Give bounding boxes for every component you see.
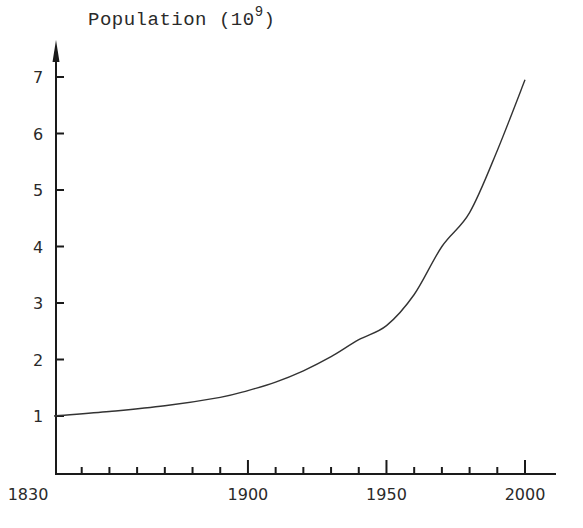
- x-tick-label: 1830: [8, 485, 49, 504]
- y-tick-label: 3: [33, 294, 43, 313]
- x-tick-labels: 1830190019502000: [8, 485, 546, 504]
- population-line-chart: Population (109) 1234567 183019001950200…: [0, 0, 583, 528]
- x-ticks: [82, 460, 525, 474]
- population-curve: [54, 80, 525, 416]
- y-tick-label: 7: [33, 68, 43, 87]
- x-tick-label: 1900: [228, 485, 269, 504]
- y-axis-arrow-icon: [53, 40, 60, 62]
- x-tick-label: 2000: [505, 485, 546, 504]
- y-tick-label: 1: [33, 407, 43, 426]
- y-axis-title: Population (109): [88, 4, 275, 31]
- y-tick-label: 5: [33, 181, 43, 200]
- y-tick-label: 6: [33, 125, 43, 144]
- y-ticks: [56, 77, 64, 416]
- x-tick-label: 1950: [366, 485, 407, 504]
- y-tick-label: 4: [33, 238, 43, 257]
- y-tick-labels: 1234567: [33, 68, 43, 426]
- axes: [53, 40, 557, 474]
- y-tick-label: 2: [33, 351, 43, 370]
